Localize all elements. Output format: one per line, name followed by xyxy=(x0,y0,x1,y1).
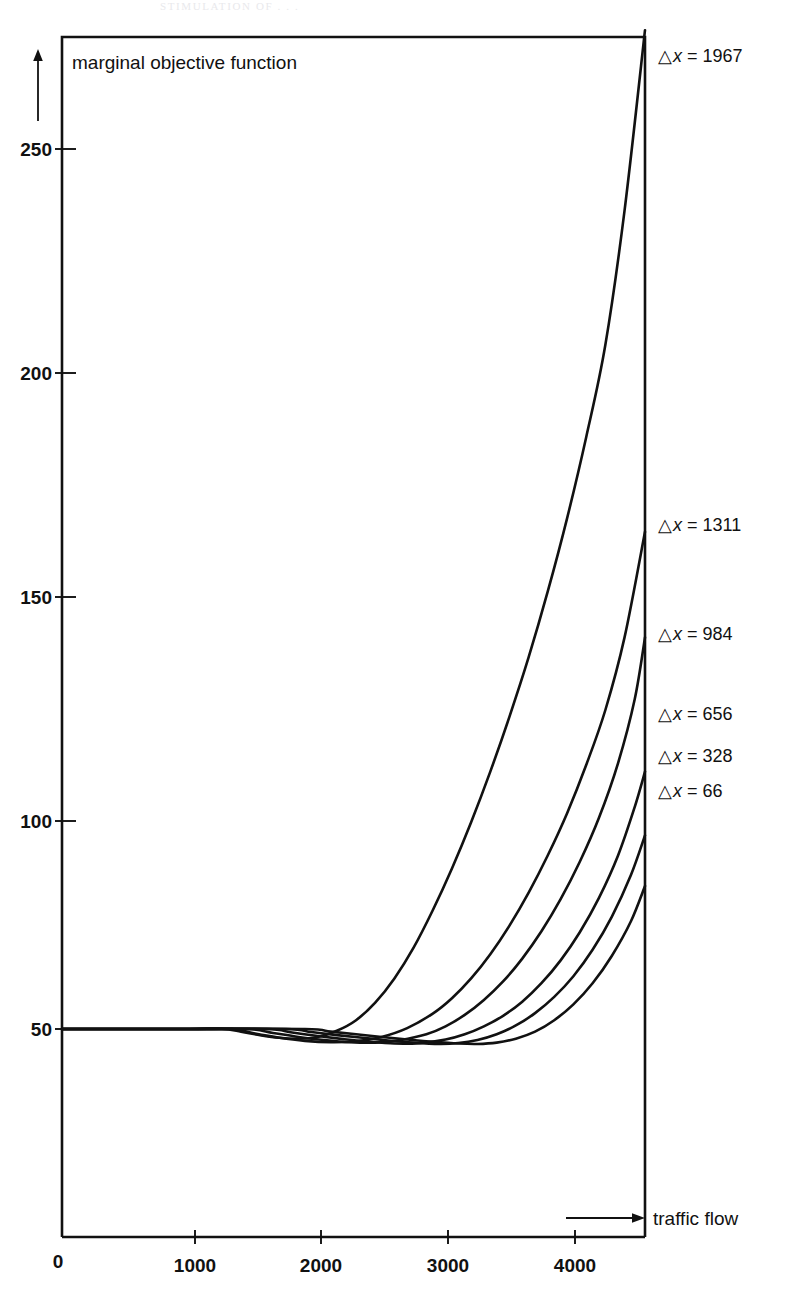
y-axis-arrow-icon xyxy=(33,49,43,121)
plot-frame xyxy=(62,37,645,1237)
y-tick-labels: 250 200 150 100 50 xyxy=(20,139,52,1040)
y-axis-title: marginal objective function xyxy=(72,52,297,73)
series-annotations: △x = 1967△x = 1311△x = 984△x = 656△x = 3… xyxy=(658,46,743,801)
x-tick-label-2000: 2000 xyxy=(300,1255,342,1276)
delta-triangle-icon: △ xyxy=(658,46,672,66)
x-axis xyxy=(62,1230,645,1244)
series-label-dx_1967: △x = 1967 xyxy=(658,46,743,66)
x-tick-label-1000: 1000 xyxy=(174,1255,216,1276)
y-axis-ticks xyxy=(55,149,76,1029)
series-label-dx_328: △x = 328 xyxy=(658,746,733,766)
y-tick-label-100: 100 xyxy=(20,811,52,832)
delta-triangle-icon: △ xyxy=(658,746,672,766)
series-value-dx_656: 656 xyxy=(703,704,733,724)
series-value-dx_1311: 1311 xyxy=(703,515,742,535)
delta-triangle-icon: △ xyxy=(658,781,672,801)
x-tick-label-3000: 3000 xyxy=(427,1255,469,1276)
y-tick-label-250: 250 xyxy=(20,139,52,160)
series-label-dx_984: △x = 984 xyxy=(658,624,733,644)
delta-triangle-icon: △ xyxy=(658,515,672,535)
series-value-dx_66: 66 xyxy=(703,781,723,801)
marginal-objective-function-chart: 250 200 150 100 50 0 1000 2000 3000 4000… xyxy=(0,0,791,1297)
y-tick-label-50: 50 xyxy=(31,1019,52,1040)
x-tick-label-4000: 4000 xyxy=(554,1255,596,1276)
chart-page: STIMULATION OF . . . xyxy=(0,0,791,1297)
series-value-dx_1967: 1967 xyxy=(703,46,743,66)
curve-dx_1967 xyxy=(62,30,645,1039)
x-tick-labels: 0 1000 2000 3000 4000 xyxy=(53,1251,596,1276)
curve-dx_328 xyxy=(62,835,645,1044)
x-axis-title: traffic flow xyxy=(653,1208,738,1229)
series-value-dx_328: 328 xyxy=(703,746,733,766)
curve-dx_984 xyxy=(62,637,645,1042)
x-tick-label-0: 0 xyxy=(53,1251,64,1272)
y-tick-label-200: 200 xyxy=(20,363,52,384)
series-value-dx_984: 984 xyxy=(703,624,733,644)
series-label-dx_656: △x = 656 xyxy=(658,704,733,724)
x-axis-arrow-icon xyxy=(566,1213,645,1223)
series-label-dx_1311: △x = 1311 xyxy=(658,515,741,535)
delta-triangle-icon: △ xyxy=(658,704,672,724)
frame-border xyxy=(62,37,645,1237)
data-curves xyxy=(62,30,645,1044)
series-label-dx_66: △x = 66 xyxy=(658,781,723,801)
y-tick-label-150: 150 xyxy=(20,587,52,608)
curve-dx_656 xyxy=(62,772,645,1044)
delta-triangle-icon: △ xyxy=(658,624,672,644)
